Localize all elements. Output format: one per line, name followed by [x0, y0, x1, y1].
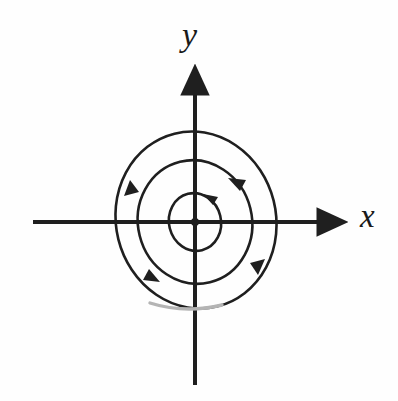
phase-portrait-canvas [0, 0, 398, 401]
flow-arrow-outer-orbit-upper-left [124, 180, 139, 196]
y-axis-label: y [182, 18, 197, 52]
phase-portrait-figure: y x [0, 0, 398, 401]
x-axis-label: x [360, 200, 375, 233]
flow-arrow-middle-orbit-lower-left [143, 269, 160, 282]
axes-group [33, 68, 344, 385]
equilibrium-point-marker [191, 218, 199, 226]
